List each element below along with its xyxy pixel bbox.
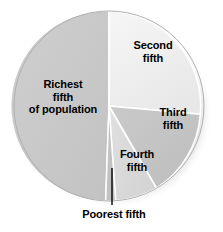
pie-slice-richest-fifth[interactable]	[11, 11, 109, 201]
pie-chart-figure: Richest fifth of population Second fifth…	[0, 0, 223, 232]
pie-slice-second-fifth[interactable]	[109, 11, 201, 114]
pie-chart-graphic	[0, 0, 223, 232]
